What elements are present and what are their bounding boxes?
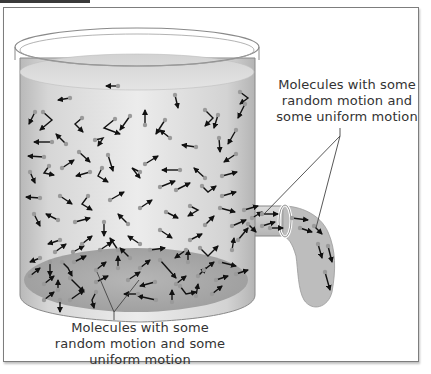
callout-line: random motion and [262, 93, 431, 109]
callout-line: some uniform motion [262, 109, 431, 125]
callout-label-bottom: Molecules with some random motion and so… [40, 320, 240, 368]
callout-line: random motion and some [40, 336, 240, 352]
callout-line: Molecules with some [262, 77, 431, 93]
tank-illustration [0, 0, 431, 374]
callout-line: uniform motion [40, 352, 240, 368]
callout-label-pipe: Molecules with some random motion and so… [262, 77, 431, 125]
callout-line: Molecules with some [40, 320, 240, 336]
